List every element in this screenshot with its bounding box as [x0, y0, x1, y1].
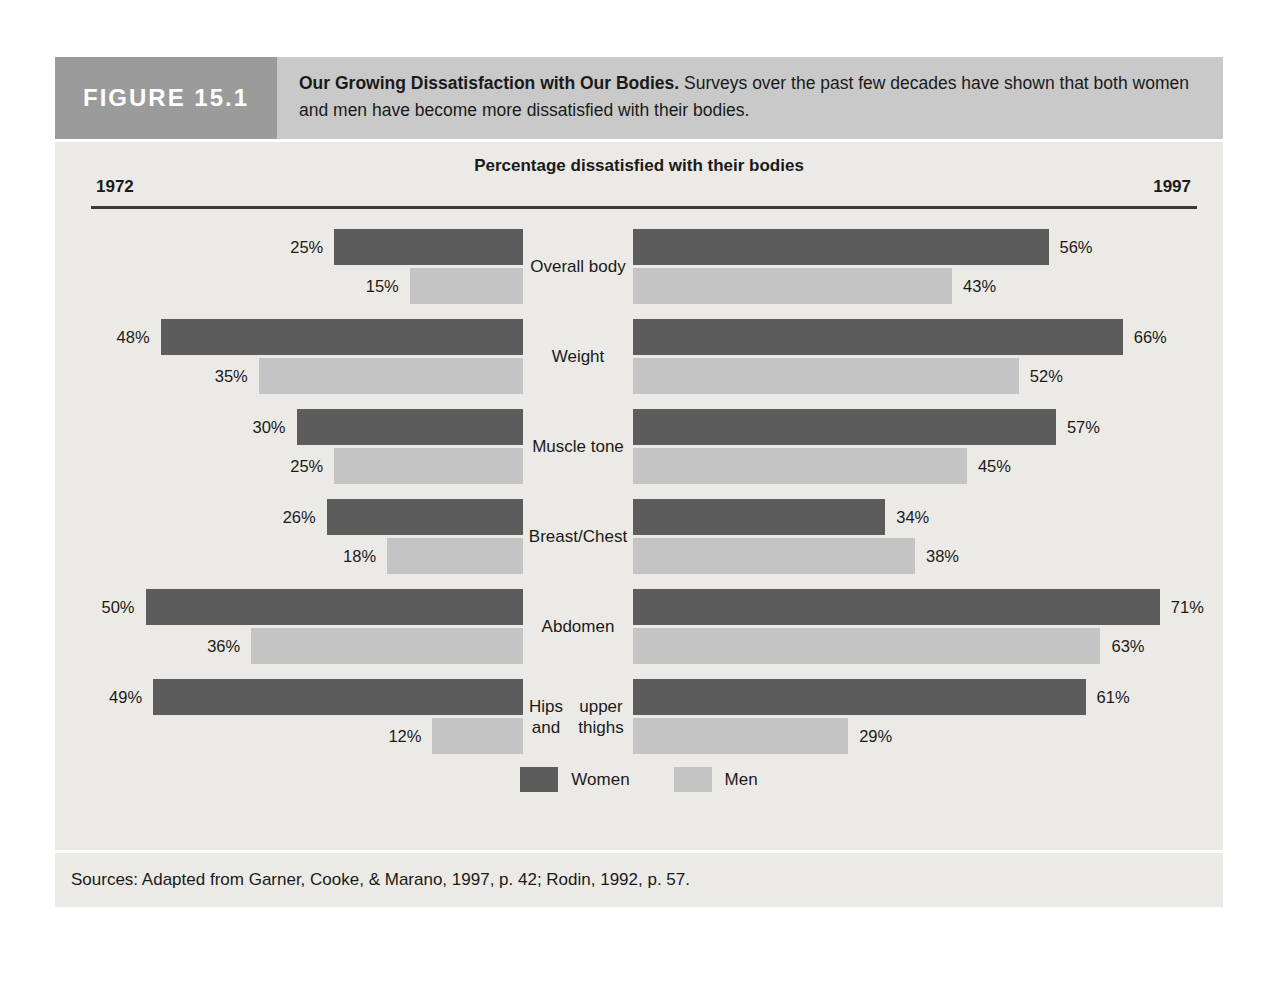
- bar-women-1972: 25%: [334, 229, 523, 265]
- chart-row: 25%15%Overall body56%43%: [55, 222, 1223, 312]
- legend-item-men: Men: [674, 767, 758, 792]
- chart-row-label-line1: Muscle tone: [532, 436, 624, 457]
- chart-row: 30%25%Muscle tone57%45%: [55, 402, 1223, 492]
- bar-women-1997: 71%: [633, 589, 1160, 625]
- bar-men-1997: 63%: [633, 628, 1100, 664]
- bar-women-1997: 34%: [633, 499, 885, 535]
- chart-row-right-1997: 57%45%: [633, 402, 1223, 492]
- chart-panel: Percentage dissatisfied with their bodie…: [55, 139, 1223, 850]
- chart-axis-title: Percentage dissatisfied with their bodie…: [55, 156, 1223, 176]
- chart-row-left-1972: 50%36%: [55, 582, 523, 672]
- bar-men-1972: 15%: [410, 268, 523, 304]
- bar-value-men-1972: 15%: [366, 268, 399, 304]
- bar-value-men-1972: 12%: [388, 718, 421, 754]
- chart-row: 49%12%Hips andupper thighs61%29%: [55, 672, 1223, 762]
- chart-row: 48%35%Weight66%52%: [55, 312, 1223, 402]
- axis-year-right: 1997: [1153, 177, 1191, 197]
- figure-sources: Sources: Adapted from Garner, Cooke, & M…: [55, 850, 1223, 907]
- bar-value-women-1997: 61%: [1097, 679, 1130, 715]
- chart-row-label: Hips andupper thighs: [523, 672, 633, 762]
- figure-caption: Our Growing Dissatisfaction with Our Bod…: [277, 57, 1223, 139]
- chart-row-right-1997: 71%63%: [633, 582, 1223, 672]
- chart-legend: Women Men: [55, 767, 1223, 792]
- chart-rows: 25%15%Overall body56%43%48%35%Weight66%5…: [55, 222, 1223, 762]
- bar-value-men-1997: 63%: [1111, 628, 1144, 664]
- bar-women-1997: 57%: [633, 409, 1056, 445]
- bar-value-men-1972: 35%: [215, 358, 248, 394]
- bar-value-men-1997: 52%: [1030, 358, 1063, 394]
- figure-header: FIGURE 15.1 Our Growing Dissatisfaction …: [55, 57, 1223, 139]
- bar-men-1972: 12%: [432, 718, 523, 754]
- bar-value-men-1997: 45%: [978, 448, 1011, 484]
- figure-number-label: FIGURE 15.1: [83, 84, 249, 112]
- bar-value-men-1997: 43%: [963, 268, 996, 304]
- figure-caption-title: Our Growing Dissatisfaction with Our Bod…: [299, 73, 679, 93]
- legend-swatch-women-icon: [520, 767, 558, 792]
- chart-row-left-1972: 30%25%: [55, 402, 523, 492]
- bar-women-1972: 49%: [153, 679, 523, 715]
- bar-men-1997: 29%: [633, 718, 848, 754]
- bar-value-women-1972: 50%: [101, 589, 134, 625]
- bar-men-1972: 36%: [251, 628, 523, 664]
- bar-value-women-1972: 26%: [283, 499, 316, 535]
- bar-value-women-1972: 48%: [117, 319, 150, 355]
- chart-row-right-1997: 34%38%: [633, 492, 1223, 582]
- chart-row-label: Abdomen: [523, 582, 633, 672]
- chart-row-label: Breast/Chest: [523, 492, 633, 582]
- legend-swatch-men-icon: [674, 767, 712, 792]
- bar-women-1972: 26%: [327, 499, 523, 535]
- bar-women-1997: 66%: [633, 319, 1123, 355]
- bar-value-men-1997: 38%: [926, 538, 959, 574]
- legend-item-women: Women: [520, 767, 629, 792]
- chart-row: 26%18%Breast/Chest34%38%: [55, 492, 1223, 582]
- chart-row-left-1972: 48%35%: [55, 312, 523, 402]
- bar-value-men-1997: 29%: [859, 718, 892, 754]
- bar-men-1997: 38%: [633, 538, 915, 574]
- figure-number-box: FIGURE 15.1: [55, 57, 277, 139]
- chart-row-label-line1: Hips and: [523, 696, 569, 739]
- bar-men-1997: 43%: [633, 268, 952, 304]
- bar-women-1972: 30%: [297, 409, 524, 445]
- page-root: FIGURE 15.1 Our Growing Dissatisfaction …: [0, 0, 1276, 986]
- figure-sources-text: Sources: Adapted from Garner, Cooke, & M…: [71, 870, 690, 890]
- legend-label-women: Women: [571, 770, 629, 790]
- chart-row-left-1972: 26%18%: [55, 492, 523, 582]
- legend-label-men: Men: [725, 770, 758, 790]
- axis-year-left: 1972: [96, 177, 134, 197]
- bar-value-women-1997: 34%: [896, 499, 929, 535]
- axis-rule: [91, 206, 1197, 209]
- bar-value-women-1972: 25%: [290, 229, 323, 265]
- bar-men-1972: 18%: [387, 538, 523, 574]
- bar-value-women-1997: 71%: [1171, 589, 1204, 625]
- chart-row-right-1997: 66%52%: [633, 312, 1223, 402]
- bar-men-1972: 35%: [259, 358, 523, 394]
- chart-row-label-line1: Abdomen: [542, 616, 615, 637]
- chart-row-right-1997: 61%29%: [633, 672, 1223, 762]
- bar-men-1972: 25%: [334, 448, 523, 484]
- chart-row-left-1972: 49%12%: [55, 672, 523, 762]
- bar-men-1997: 52%: [633, 358, 1019, 394]
- bar-value-women-1972: 49%: [109, 679, 142, 715]
- bar-women-1972: 48%: [161, 319, 523, 355]
- chart-row-label-line1: Overall body: [530, 256, 625, 277]
- bar-men-1997: 45%: [633, 448, 967, 484]
- bar-women-1997: 61%: [633, 679, 1086, 715]
- bar-value-men-1972: 36%: [207, 628, 240, 664]
- bar-value-men-1972: 25%: [290, 448, 323, 484]
- bar-women-1997: 56%: [633, 229, 1049, 265]
- bar-value-women-1997: 57%: [1067, 409, 1100, 445]
- chart-row: 50%36%Abdomen71%63%: [55, 582, 1223, 672]
- bar-value-men-1972: 18%: [343, 538, 376, 574]
- chart-row-label-line1: Weight: [552, 346, 605, 367]
- bar-value-women-1997: 56%: [1060, 229, 1093, 265]
- bar-value-women-1997: 66%: [1134, 319, 1167, 355]
- chart-row-label: Overall body: [523, 222, 633, 312]
- chart-row-right-1997: 56%43%: [633, 222, 1223, 312]
- figure-container: FIGURE 15.1 Our Growing Dissatisfaction …: [55, 57, 1223, 907]
- chart-row-label-line2: upper thighs: [569, 696, 633, 739]
- chart-row-label: Weight: [523, 312, 633, 402]
- bar-value-women-1972: 30%: [252, 409, 285, 445]
- chart-row-label: Muscle tone: [523, 402, 633, 492]
- bar-women-1972: 50%: [146, 589, 524, 625]
- chart-row-left-1972: 25%15%: [55, 222, 523, 312]
